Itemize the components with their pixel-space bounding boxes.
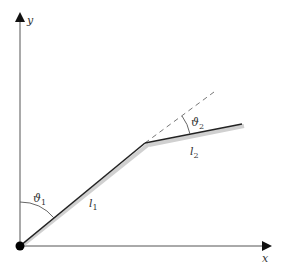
theta-2-arc	[182, 116, 190, 134]
y-axis-label: y	[26, 14, 34, 27]
theta-1-label: ϑ1	[33, 192, 46, 207]
x-axis-label: x	[262, 252, 269, 265]
link-2-label: l2	[190, 145, 199, 160]
theta-2-label: ϑ2	[191, 116, 204, 131]
base-joint	[16, 242, 25, 251]
link-1-shadow	[24, 144, 149, 244]
link-1-label: l1	[89, 197, 98, 212]
robot-arm-diagram: y x ϑ1 l1 ϑ2 l2	[0, 0, 283, 273]
